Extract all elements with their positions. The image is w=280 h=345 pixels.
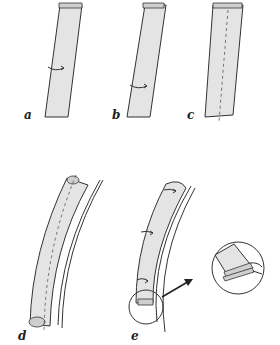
label-e: e bbox=[131, 329, 139, 343]
label-a: a bbox=[24, 108, 32, 122]
panel-b: b bbox=[112, 3, 166, 122]
panel-d: d bbox=[18, 175, 103, 343]
pointer-arrow-icon bbox=[162, 279, 193, 297]
label-c: c bbox=[187, 108, 195, 122]
label-d: d bbox=[18, 329, 27, 343]
panel-a: a bbox=[24, 3, 82, 122]
panel-e: e bbox=[129, 182, 195, 343]
panel-c: c bbox=[187, 3, 243, 122]
detail-callout bbox=[212, 242, 264, 294]
figure-canvas: a b c d e bbox=[0, 0, 280, 345]
label-b: b bbox=[112, 108, 120, 122]
